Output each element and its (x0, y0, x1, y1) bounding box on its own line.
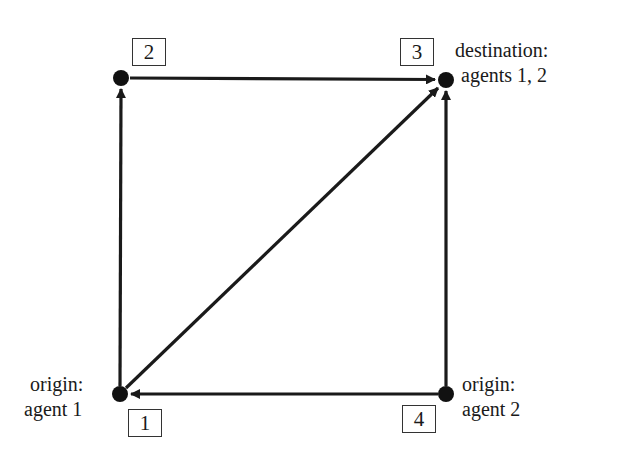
node-1-dot (112, 386, 128, 402)
origin-2-heading: origin: (462, 372, 520, 397)
destination-heading: destination: (455, 38, 548, 63)
edge-1-to-2 (120, 89, 121, 386)
node-label-4: 4 (402, 405, 436, 433)
origin-1-agent: agent 1 (24, 397, 83, 422)
node-label-2: 2 (132, 38, 166, 66)
node-label-1: 1 (128, 409, 162, 437)
destination-agents: agents 1, 2 (455, 63, 548, 88)
annotation-origin-agent-1: origin: agent 1 (24, 372, 83, 422)
annotation-origin-agent-2: origin: agent 2 (462, 372, 520, 422)
edge-1-to-3 (126, 88, 438, 388)
origin-1-heading: origin: (24, 372, 83, 397)
node-3-dot (438, 72, 454, 88)
annotation-destination: destination: agents 1, 2 (455, 38, 548, 88)
edge-2-to-3 (130, 78, 435, 80)
node-4-dot (438, 386, 454, 402)
origin-2-agent: agent 2 (462, 397, 520, 422)
node-2-dot (113, 70, 129, 86)
node-label-3: 3 (400, 38, 434, 66)
